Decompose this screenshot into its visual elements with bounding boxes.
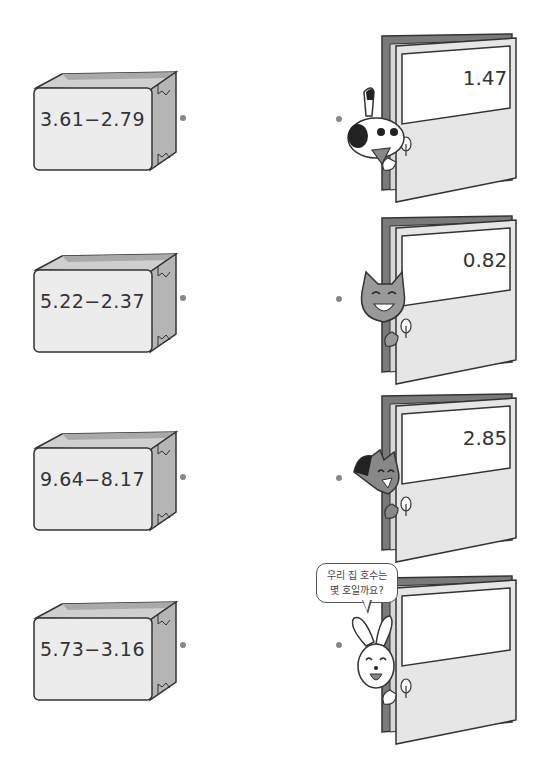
box-expression: 9.64−8.17 bbox=[40, 468, 144, 490]
match-dot-left-2[interactable] bbox=[180, 295, 186, 301]
dog-character-icon bbox=[336, 82, 416, 172]
match-dot-right-1[interactable] bbox=[336, 116, 342, 122]
match-dot-left-4[interactable] bbox=[180, 642, 186, 648]
box-expression: 5.73−3.16 bbox=[40, 638, 144, 660]
box-1: 3.61−2.79 bbox=[30, 68, 180, 178]
match-dot-right-3[interactable] bbox=[336, 475, 342, 481]
cat-character-icon bbox=[352, 270, 432, 360]
speech-bubble-tail-fill bbox=[363, 600, 370, 611]
match-dot-right-4[interactable] bbox=[336, 642, 342, 648]
door-number: 1.47 bbox=[430, 66, 540, 90]
box-expression: 3.61−2.79 bbox=[40, 108, 144, 130]
rabbit-character-icon bbox=[344, 606, 424, 716]
door-3: 2.85 bbox=[330, 390, 530, 570]
box-4: 5.73−3.16 bbox=[30, 598, 180, 708]
box-3: 9.64−8.17 bbox=[30, 428, 180, 538]
match-dot-left-1[interactable] bbox=[180, 115, 186, 121]
speech-line-2: 몇 호일까요? bbox=[317, 583, 397, 598]
door-number: 0.82 bbox=[430, 248, 540, 272]
door-2: 0.82 bbox=[330, 212, 530, 392]
door-number: 2.85 bbox=[430, 426, 540, 450]
match-dot-left-3[interactable] bbox=[180, 474, 186, 480]
box-2: 5.22−2.37 bbox=[30, 250, 180, 360]
match-dot-right-2[interactable] bbox=[336, 296, 342, 302]
speech-bubble: 우리 집 호수는 몇 호일까요? bbox=[316, 563, 398, 603]
door-1: 1.47 bbox=[330, 30, 530, 210]
wolf-character-icon bbox=[348, 446, 428, 536]
speech-line-1: 우리 집 호수는 bbox=[317, 568, 397, 583]
box-expression: 5.22−2.37 bbox=[40, 290, 144, 312]
